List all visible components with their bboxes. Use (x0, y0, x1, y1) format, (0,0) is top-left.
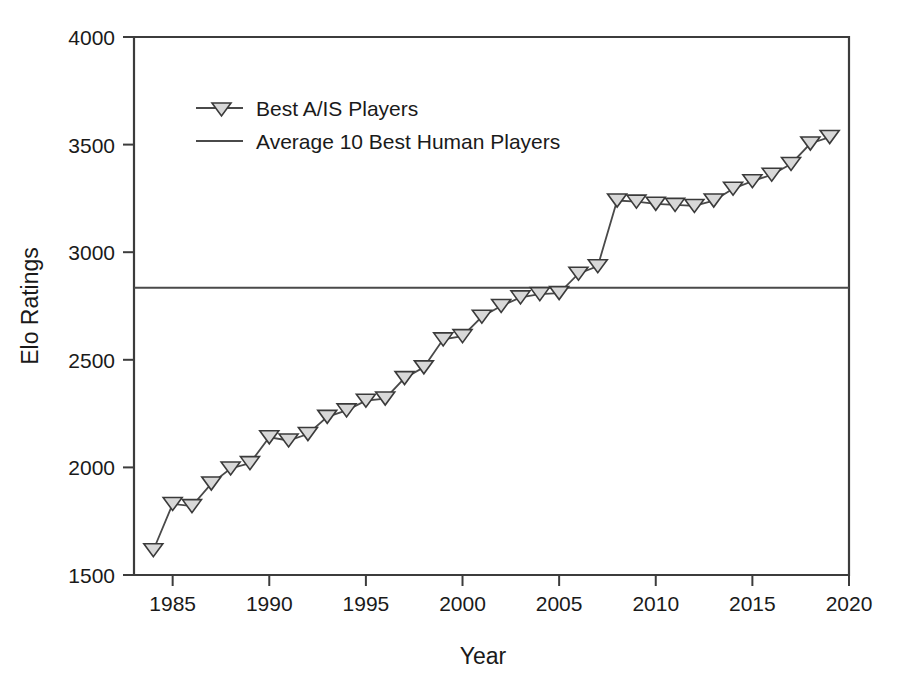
data-point-marker (472, 310, 491, 323)
x-axis-ticks: 19851990199520002005201020152020 (149, 575, 872, 615)
data-point-marker (202, 477, 221, 490)
legend-entry-ai: Best A/IS Players (196, 97, 418, 120)
y-axis-title: Elo Ratings (17, 247, 43, 365)
y-tick-label: 4000 (68, 26, 115, 49)
y-tick-label: 2500 (68, 349, 115, 372)
ai-series (144, 131, 839, 557)
chart-legend: Best A/IS Players Average 10 Best Human … (196, 97, 560, 153)
y-axis-ticks: 150020002500300035004000 (68, 26, 134, 587)
legend-entry-human: Average 10 Best Human Players (196, 130, 560, 153)
data-point-marker (434, 333, 453, 346)
x-tick-label: 2015 (729, 592, 776, 615)
data-point-marker (453, 330, 472, 343)
data-point-marker (279, 434, 298, 447)
y-tick-label: 3500 (68, 134, 115, 157)
x-tick-label: 1995 (343, 592, 390, 615)
data-point-marker (395, 372, 414, 385)
data-point-marker (337, 404, 356, 417)
data-point-marker (318, 410, 337, 423)
y-tick-label: 3000 (68, 241, 115, 264)
data-point-marker (260, 431, 279, 444)
x-tick-label: 2010 (632, 592, 679, 615)
data-point-marker (298, 428, 317, 441)
data-point-marker (762, 168, 781, 181)
data-point-marker (240, 457, 259, 470)
chart-canvas: 150020002500300035004000 198519901995200… (0, 0, 907, 692)
x-tick-label: 1990 (246, 592, 293, 615)
y-tick-label: 2000 (68, 456, 115, 479)
data-point-marker (743, 175, 762, 188)
data-point-marker (820, 131, 839, 144)
triangle-down-icon (212, 103, 231, 116)
x-tick-label: 2005 (536, 592, 583, 615)
x-axis-title: Year (460, 643, 507, 669)
data-point-marker (801, 137, 820, 150)
legend-label-human: Average 10 Best Human Players (256, 130, 560, 153)
series-markers (144, 131, 839, 557)
data-point-marker (704, 194, 723, 207)
data-point-marker (144, 544, 163, 557)
elo-ratings-chart: 150020002500300035004000 198519901995200… (0, 0, 907, 692)
legend-label-ai: Best A/IS Players (256, 97, 418, 120)
x-tick-label: 1985 (149, 592, 196, 615)
data-point-marker (588, 260, 607, 273)
plot-frame (134, 37, 849, 575)
x-tick-label: 2000 (439, 592, 486, 615)
data-point-marker (511, 291, 530, 304)
data-point-marker (569, 267, 588, 280)
x-tick-label: 2020 (826, 592, 873, 615)
y-tick-label: 1500 (68, 564, 115, 587)
